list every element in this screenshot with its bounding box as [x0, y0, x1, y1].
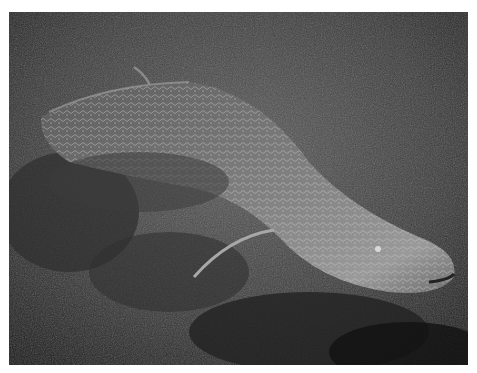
lungfish-photo	[9, 12, 468, 365]
photograph: Lungfish resting on algae-covered lake b…	[9, 12, 468, 365]
